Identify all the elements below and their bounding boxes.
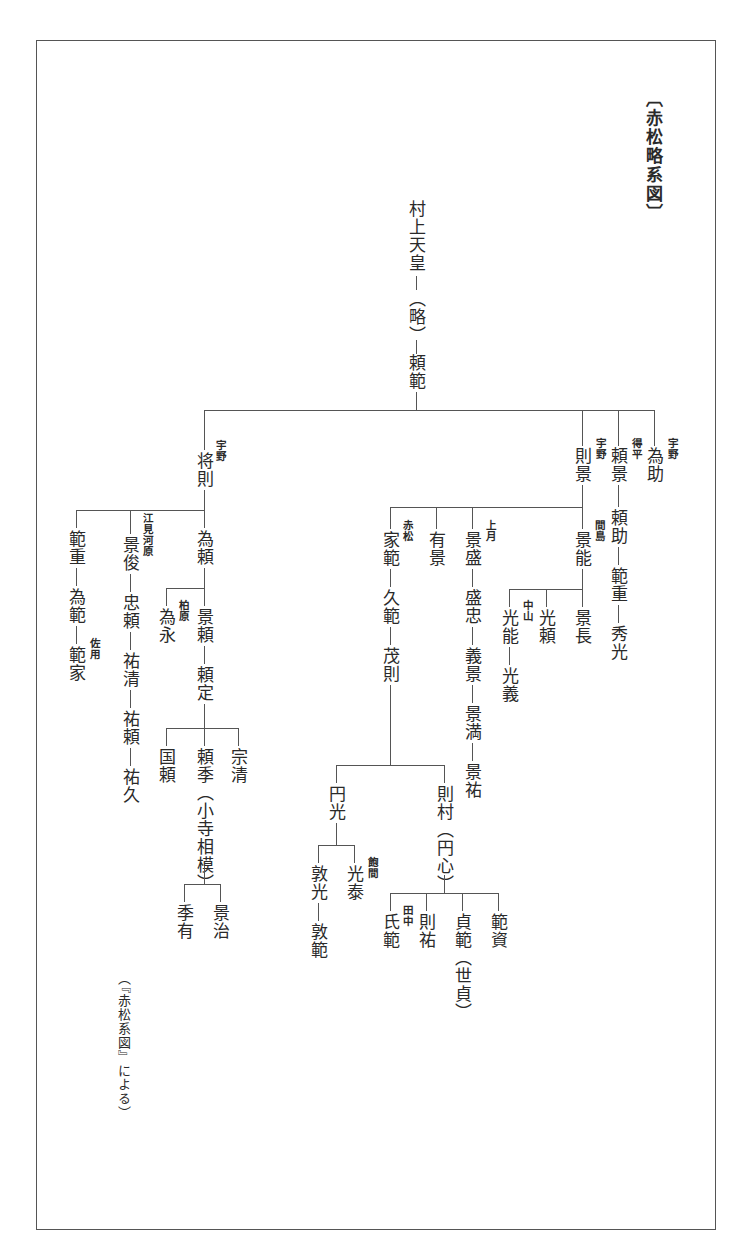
line <box>76 510 77 528</box>
node-yorikage: 頼景 <box>609 447 627 483</box>
line <box>618 410 619 446</box>
line <box>204 410 205 450</box>
node-mitsuyoshi: 光能 <box>500 609 518 645</box>
node-sukekiyo: 祐清 <box>121 652 139 688</box>
node-enko: 円光 <box>327 785 345 821</box>
line <box>390 893 498 894</box>
node-murakami: 村上天皇 <box>407 200 425 272</box>
line <box>76 510 204 511</box>
line <box>166 728 167 746</box>
line <box>204 704 205 728</box>
node-sukehisa: 祐久 <box>121 768 139 804</box>
node-mitsuyori: 光頼 <box>537 609 555 645</box>
node-moritada: 盛忠 <box>463 589 481 625</box>
node-kageyoshi: 景能 <box>573 531 591 567</box>
line <box>416 340 417 354</box>
line <box>582 485 583 507</box>
line <box>472 569 473 587</box>
line <box>204 866 205 884</box>
node-hidemitsu: 秀光 <box>609 625 627 661</box>
node-yoshikage: 義景 <box>463 647 481 683</box>
label-akuma: 飽間 <box>366 857 377 879</box>
line <box>166 588 204 589</box>
line <box>618 605 619 623</box>
node-yorinori: 頼範 <box>407 354 425 390</box>
node-norishige: 範重 <box>67 530 85 566</box>
node-kageyori: 景頼 <box>195 608 213 644</box>
node-mitsuyasu: 光泰 <box>345 865 363 901</box>
line <box>618 547 619 565</box>
label-sayo: 佐用 <box>88 638 99 660</box>
line <box>238 728 239 746</box>
node-kagemitsu: 景満 <box>463 705 481 741</box>
node-tamenori: 為範 <box>67 588 85 624</box>
node-norisuke2: 範資 <box>489 913 507 949</box>
line <box>390 685 391 765</box>
line <box>130 632 131 650</box>
node-arikage: 有景 <box>427 531 445 567</box>
line <box>166 588 167 606</box>
node-noriie: 範家 <box>67 646 85 682</box>
line <box>318 845 354 846</box>
label-uno: 宇野 <box>594 438 605 460</box>
line <box>220 884 221 902</box>
line <box>130 748 131 766</box>
node-kuniyori: 国頼 <box>157 748 175 784</box>
line <box>472 507 473 529</box>
line <box>416 276 417 290</box>
line <box>166 728 238 729</box>
line <box>654 410 655 446</box>
source-note: （『赤松系図』による） <box>116 972 130 1120</box>
line <box>618 485 619 507</box>
line <box>426 893 427 911</box>
node-norisuke: 則祐 <box>417 913 435 949</box>
line <box>130 690 131 708</box>
label-emikawahara: 江見河原 <box>141 513 152 557</box>
line <box>204 588 205 606</box>
line <box>444 875 445 893</box>
node-omitted: （略） <box>407 290 425 344</box>
line <box>336 765 337 783</box>
node-atsumitsu: 敦光 <box>309 865 327 901</box>
line <box>472 627 473 645</box>
line <box>390 627 391 645</box>
line <box>184 884 185 902</box>
node-yorisuke: 頼助 <box>609 509 627 545</box>
line <box>130 574 131 592</box>
label-tanaka: 田中 <box>401 905 412 927</box>
node-norikage: 則景 <box>573 447 591 483</box>
node-hisanori: 久範 <box>381 589 399 625</box>
node-ienori: 家範 <box>381 531 399 567</box>
line <box>444 765 445 783</box>
line <box>390 893 391 911</box>
line <box>582 569 583 589</box>
line <box>582 589 583 607</box>
line <box>390 569 391 587</box>
line <box>204 568 205 588</box>
label-kozuki: 上月 <box>484 520 495 542</box>
node-shigenori: 茂則 <box>381 647 399 683</box>
node-tameyori: 為頼 <box>195 530 213 566</box>
line <box>509 589 510 607</box>
line <box>472 743 473 761</box>
line <box>336 823 337 845</box>
line <box>582 410 583 446</box>
line <box>76 626 77 644</box>
line <box>336 765 444 766</box>
line <box>462 893 463 911</box>
line <box>582 507 583 529</box>
node-suearu: 季有 <box>175 904 193 940</box>
node-atsunori: 敦範 <box>309 923 327 959</box>
node-kagemori: 景盛 <box>463 531 481 567</box>
node-kagetoshi: 景俊 <box>121 536 139 572</box>
node-ujinori: 氏範 <box>381 913 399 949</box>
line <box>472 685 473 703</box>
node-tadayori: 忠頼 <box>121 594 139 630</box>
node-tamesuke: 為助 <box>645 447 663 483</box>
line <box>204 490 205 510</box>
line <box>390 507 582 508</box>
node-shonori: 将則 <box>195 452 213 488</box>
line <box>354 845 355 863</box>
chart-title: 〔赤松略系図〕 <box>644 90 662 223</box>
label-uno: 宇野 <box>214 440 225 462</box>
